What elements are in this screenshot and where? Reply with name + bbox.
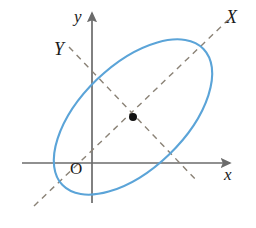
rotated-Y-axis-label: Y (54, 40, 64, 58)
rotated-X-axis-label: X (226, 8, 237, 26)
x-axis-label: x (224, 166, 232, 183)
conic-diagram-figure: y x X Y O (0, 0, 256, 228)
y-axis-label: y (74, 8, 82, 25)
ellipse-center-point (129, 113, 137, 121)
diagram-canvas (0, 0, 256, 228)
origin-label: O (70, 160, 82, 177)
